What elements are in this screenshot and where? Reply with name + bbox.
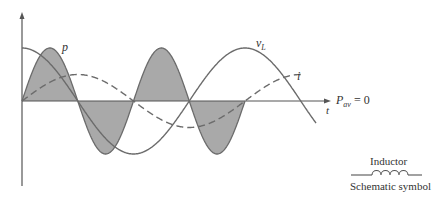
diagram-canvas: [0, 0, 440, 200]
voltage-label-sub: L: [261, 43, 265, 52]
schematic-symbol-caption: Schematic symbol: [350, 180, 431, 192]
power-lobe-positive: [134, 48, 190, 101]
voltage-label: vL: [256, 36, 266, 52]
inductor-symbol-icon: [351, 171, 422, 176]
power-lobe-positive: [22, 48, 78, 101]
inductor-label: Inductor: [370, 155, 407, 167]
current-label: i: [297, 69, 300, 84]
average-power-sub: av: [343, 100, 351, 109]
time-axis-arrow-icon: [324, 99, 331, 104]
average-power-value: = 0: [354, 93, 370, 107]
power-lobe-negative: [189, 101, 245, 154]
vertical-axis-arrow-icon: [20, 12, 25, 19]
power-label: p: [62, 40, 68, 55]
power-lobe-negative: [78, 101, 134, 154]
time-axis-label: t: [326, 104, 329, 116]
average-power-label: Pav = 0: [336, 93, 370, 109]
